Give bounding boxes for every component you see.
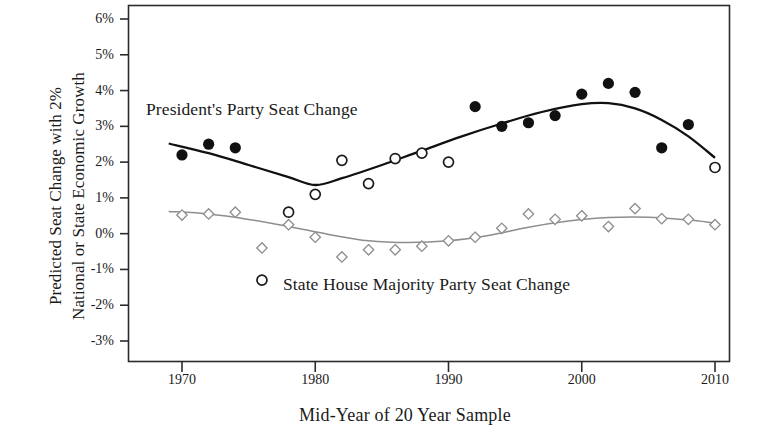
data-point-open <box>417 148 427 158</box>
data-point-filled <box>523 117 534 128</box>
data-point-diamond <box>310 232 320 242</box>
trend-line <box>169 212 715 243</box>
series-state-house-majority <box>169 203 721 262</box>
data-point-open <box>710 162 720 172</box>
data-point-open <box>364 179 374 189</box>
data-point-diamond <box>257 243 267 253</box>
data-point-diamond <box>443 236 453 246</box>
data-point-filled <box>576 89 587 100</box>
data-point-open <box>337 155 347 165</box>
data-point-filled <box>176 149 187 160</box>
data-point-filled <box>603 78 614 89</box>
data-point-diamond <box>683 214 693 224</box>
data-point-diamond <box>630 203 640 213</box>
data-point-diamond <box>657 213 667 223</box>
data-point-filled <box>550 110 561 121</box>
data-point-filled <box>629 87 640 98</box>
plot-frame <box>129 6 730 362</box>
data-point-diamond <box>470 232 480 242</box>
data-point-open <box>310 189 320 199</box>
data-point-open <box>444 157 454 167</box>
data-point-filled <box>496 121 507 132</box>
data-point-open <box>284 207 294 217</box>
data-point-diamond <box>390 245 400 255</box>
data-point-diamond <box>203 209 213 219</box>
data-point-filled <box>683 119 694 130</box>
data-point-diamond <box>710 220 720 230</box>
data-point-filled <box>230 142 241 153</box>
data-point-diamond <box>603 221 613 231</box>
data-point-diamond <box>523 209 533 219</box>
chart-figure: Predicted Seat Change with 2% National o… <box>0 0 763 441</box>
data-point-filled <box>470 101 481 112</box>
data-point-open <box>257 275 267 285</box>
data-point-open <box>390 154 400 164</box>
data-point-filled <box>203 139 214 150</box>
data-point-diamond <box>363 245 373 255</box>
data-point-filled <box>656 142 667 153</box>
series-label-state-house-majority: State House Majority Party Seat Change <box>283 274 570 295</box>
series-label-presidents-party: President's Party Seat Change <box>146 99 358 120</box>
x-axis-title: Mid-Year of 20 Year Sample <box>180 405 630 426</box>
data-point-diamond <box>230 207 240 217</box>
plot-area <box>0 0 763 441</box>
axis-tick-marks <box>120 19 715 372</box>
data-point-diamond <box>283 220 293 230</box>
data-point-diamond <box>337 252 347 262</box>
